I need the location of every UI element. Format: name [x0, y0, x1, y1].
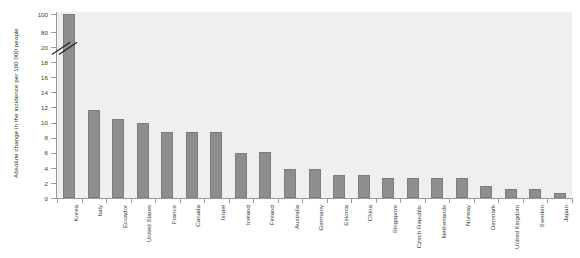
x-category-label: Australia [293, 205, 300, 258]
bar [333, 175, 345, 198]
x-category-label: United States [145, 205, 152, 258]
y-tick-mark [51, 168, 56, 169]
y-tick-label: 0 [22, 195, 48, 202]
bar [137, 123, 149, 198]
y-tick-mark [51, 198, 56, 199]
y-tick-mark [51, 47, 56, 48]
bar [309, 169, 321, 198]
bar [161, 132, 173, 198]
x-category-label: United Kingdom [513, 205, 520, 258]
x-tick-mark [498, 199, 499, 203]
y-axis-title-text: Absolute change in the incidence per 100… [12, 28, 19, 178]
bar [235, 153, 247, 198]
bar [88, 110, 100, 198]
y-tick-label: 20 [22, 44, 48, 51]
y-tick-mark [51, 32, 56, 33]
y-tick-mark [51, 92, 56, 93]
x-tick-mark [131, 199, 132, 203]
x-category-label: Norway [464, 205, 471, 258]
y-tick-label: 80 [22, 29, 48, 36]
y-tick-mark [51, 153, 56, 154]
y-tick-mark [51, 14, 56, 15]
x-category-label: France [170, 205, 177, 258]
bar [382, 178, 394, 198]
x-tick-mark [449, 199, 450, 203]
y-tick-mark [51, 62, 56, 63]
y-tick-label: 12 [22, 104, 48, 111]
x-category-label: Finland [268, 205, 275, 258]
bar [431, 178, 443, 198]
x-tick-mark [229, 199, 230, 203]
x-tick-mark [547, 199, 548, 203]
bar [259, 152, 271, 198]
x-tick-mark [302, 199, 303, 203]
x-category-label: China [366, 205, 373, 258]
y-tick-mark [51, 183, 56, 184]
y-tick-mark [51, 123, 56, 124]
x-tick-mark [204, 199, 205, 203]
x-category-label: Singapore [391, 205, 398, 258]
x-tick-mark [278, 199, 279, 203]
x-category-label: Canada [194, 205, 201, 258]
chart-figure: Absolute change in the incidence per 100… [0, 0, 580, 258]
x-category-label: Italy [96, 205, 103, 258]
bar [456, 178, 468, 198]
y-axis-line [56, 12, 57, 199]
x-tick-mark [327, 199, 328, 203]
y-axis-title: Absolute change in the incidence per 100… [8, 8, 22, 198]
x-tick-mark [425, 199, 426, 203]
bar [505, 189, 517, 198]
bar [210, 132, 222, 198]
bar [480, 186, 492, 198]
bar [186, 132, 198, 198]
x-tick-mark [180, 199, 181, 203]
x-category-label: Germany [317, 205, 324, 258]
x-category-label: Israel [219, 205, 226, 258]
bar [407, 178, 419, 198]
y-tick-label: 14 [22, 89, 48, 96]
x-tick-mark [106, 199, 107, 203]
x-tick-mark [253, 199, 254, 203]
bar [284, 169, 296, 198]
x-tick-mark [57, 199, 58, 203]
y-tick-label: 4 [22, 165, 48, 172]
x-category-label: Japan [562, 205, 569, 258]
x-category-label: Korea [72, 205, 79, 258]
x-category-label: Czech Republic [415, 205, 422, 258]
x-tick-mark [400, 199, 401, 203]
x-category-label: Ecuador [121, 205, 128, 258]
x-tick-mark [376, 199, 377, 203]
y-tick-label: 18 [22, 59, 48, 66]
y-tick-label: 8 [22, 134, 48, 141]
x-category-label: Estonia [342, 205, 349, 258]
x-tick-mark [474, 199, 475, 203]
x-axis-line [56, 198, 573, 199]
y-tick-mark [51, 107, 56, 108]
y-tick-mark [51, 138, 56, 139]
bar [112, 119, 124, 198]
y-tick-label: 6 [22, 149, 48, 156]
y-tick-label: 2 [22, 180, 48, 187]
bar [529, 189, 541, 198]
x-tick-mark [572, 199, 573, 203]
x-category-label: Netherlands [440, 205, 447, 258]
bar [63, 14, 75, 198]
y-tick-label: 16 [22, 74, 48, 81]
y-tick-label: 10 [22, 119, 48, 126]
x-category-label: Iceland [244, 205, 251, 258]
x-tick-mark [351, 199, 352, 203]
bar [358, 175, 370, 198]
bar [554, 193, 566, 198]
x-category-label: Sweden [538, 205, 545, 258]
x-tick-mark [82, 199, 83, 203]
y-tick-mark [51, 77, 56, 78]
x-category-label: Denmark [489, 205, 496, 258]
x-tick-mark [155, 199, 156, 203]
x-tick-mark [523, 199, 524, 203]
y-tick-label: 100 [22, 11, 48, 18]
